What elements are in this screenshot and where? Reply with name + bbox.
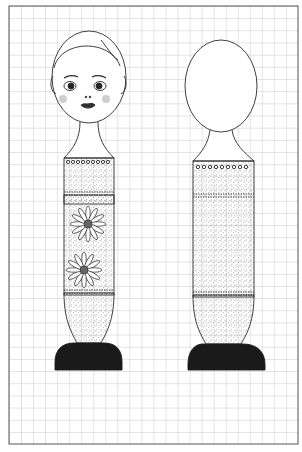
doll-base bbox=[55, 343, 122, 370]
bead-row bbox=[66, 160, 109, 163]
doll-head bbox=[185, 40, 257, 132]
doll-base bbox=[188, 344, 265, 370]
doll-head bbox=[52, 31, 126, 123]
doll-pattern-sheet bbox=[0, 0, 302, 452]
